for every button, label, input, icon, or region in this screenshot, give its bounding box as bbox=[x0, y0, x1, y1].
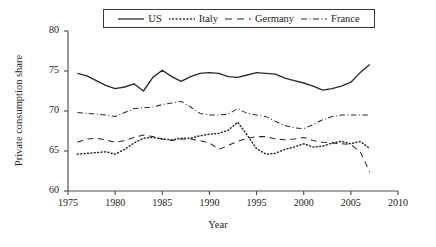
x-tick-label: 2010 bbox=[381, 197, 415, 208]
legend-swatch-germany bbox=[225, 14, 251, 24]
chart-legend: US Italy Germany France bbox=[103, 9, 375, 28]
series-line-france bbox=[77, 101, 369, 128]
x-tick-label: 1975 bbox=[51, 197, 85, 208]
x-tick-label: 2005 bbox=[334, 197, 368, 208]
y-tick-label: 80 bbox=[37, 24, 59, 35]
y-axis-title: Private consumption share bbox=[13, 31, 24, 191]
x-tick-label: 1985 bbox=[145, 197, 179, 208]
series-line-us bbox=[77, 65, 369, 91]
legend-label-italy: Italy bbox=[199, 13, 218, 24]
legend-label-germany: Germany bbox=[255, 13, 294, 24]
y-tick-label: 70 bbox=[37, 104, 59, 115]
x-tick-label: 1995 bbox=[240, 197, 274, 208]
legend-item-us: US bbox=[118, 13, 161, 24]
x-tick-label: 1980 bbox=[98, 197, 132, 208]
y-tick-label: 60 bbox=[37, 184, 59, 195]
y-tick-label: 75 bbox=[37, 64, 59, 75]
legend-label-us: US bbox=[148, 13, 161, 24]
x-tick-label: 2000 bbox=[287, 197, 321, 208]
legend-swatch-italy bbox=[169, 14, 195, 24]
legend-label-france: France bbox=[331, 13, 360, 24]
chart-figure: US Italy Germany France Year Private con… bbox=[0, 0, 436, 247]
legend-swatch-us bbox=[118, 14, 144, 24]
legend-item-germany: Germany bbox=[225, 13, 294, 24]
x-axis-title: Year bbox=[0, 219, 436, 230]
series-line-germany bbox=[77, 135, 369, 172]
series-line-italy bbox=[77, 122, 369, 154]
legend-item-italy: Italy bbox=[169, 13, 218, 24]
x-tick-label: 1990 bbox=[192, 197, 226, 208]
y-tick-label: 65 bbox=[37, 144, 59, 155]
line-chart-plot bbox=[0, 0, 436, 247]
legend-item-france: France bbox=[301, 13, 360, 24]
legend-swatch-france bbox=[301, 14, 327, 24]
